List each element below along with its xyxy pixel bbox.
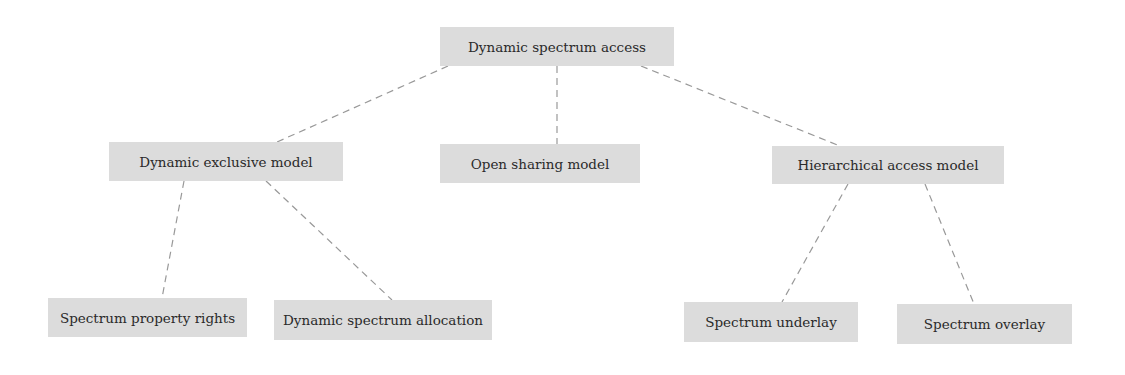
node-spectrum-property-rights: Spectrum property rights — [48, 298, 247, 337]
node-spectrum-overlay: Spectrum overlay — [897, 304, 1072, 344]
edge-hierarchical-underlay — [782, 184, 848, 302]
node-label: Open sharing model — [471, 156, 610, 172]
node-label: Hierarchical access model — [797, 157, 978, 173]
edge-root-hierarchical — [641, 66, 840, 146]
node-label: Dynamic exclusive model — [139, 154, 312, 170]
edge-exclusive-property — [162, 181, 184, 298]
edge-exclusive-allocation — [266, 181, 392, 300]
node-label: Spectrum overlay — [924, 316, 1045, 332]
node-label: Spectrum property rights — [60, 310, 235, 326]
edge-root-exclusive — [277, 66, 448, 142]
node-label: Dynamic spectrum access — [468, 39, 646, 55]
node-dynamic-spectrum-allocation: Dynamic spectrum allocation — [274, 300, 492, 340]
node-hierarchical-access-model: Hierarchical access model — [772, 146, 1004, 184]
edge-hierarchical-overlay — [925, 184, 974, 304]
node-dynamic-spectrum-access: Dynamic spectrum access — [440, 27, 674, 66]
node-open-sharing-model: Open sharing model — [440, 144, 640, 183]
node-label: Dynamic spectrum allocation — [283, 312, 483, 328]
node-label: Spectrum underlay — [705, 314, 837, 330]
node-dynamic-exclusive-model: Dynamic exclusive model — [109, 142, 343, 181]
node-spectrum-underlay: Spectrum underlay — [684, 302, 858, 342]
